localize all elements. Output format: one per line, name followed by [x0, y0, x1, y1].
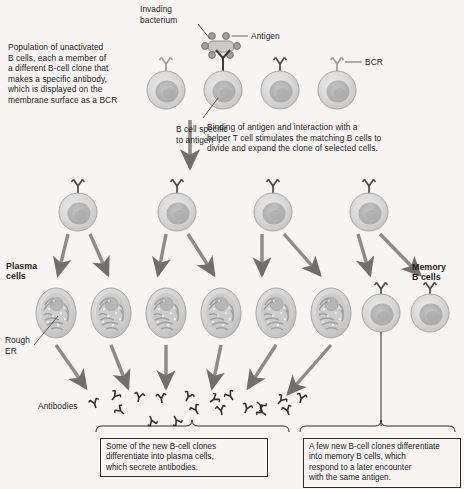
memory-cell-1[interactable] [362, 283, 400, 333]
antibodies-cluster [88, 389, 307, 426]
plasma-cell-4[interactable] [201, 288, 241, 338]
bcr-label: BCR [365, 57, 383, 68]
plasma-cell-6[interactable] [311, 288, 351, 338]
plasma-cells-label: Plasma cells [6, 261, 66, 282]
rough-er-label: Rough ER [5, 335, 45, 356]
binding-note: Binding of antigen and interaction with … [207, 122, 457, 154]
memory-cells-textbox: A few new B-cell clones differentiate in… [303, 438, 461, 488]
row-plasma-cells [34, 288, 351, 345]
antigen-label: Antigen [251, 31, 280, 42]
differentiation-arrows [58, 234, 420, 275]
row-memory-b-cells [362, 283, 449, 333]
plasma-cell-3[interactable] [146, 288, 186, 338]
plasma-cell-5[interactable] [256, 288, 296, 338]
row-activated-clone [59, 180, 388, 232]
memory-cell-2[interactable] [411, 283, 449, 333]
invading-bacterium-label: Invading bacterium [140, 4, 210, 25]
b-cell-2-selected[interactable] [204, 50, 242, 109]
clone-cell-3[interactable] [254, 180, 292, 232]
diagram-canvas: Population of unactivated B cells, each … [0, 0, 464, 489]
clone-cell-1[interactable] [59, 180, 97, 232]
row-unactivated-b-cells [147, 50, 362, 118]
plasma-cell-2[interactable] [91, 288, 131, 338]
plasma-cell-1[interactable] [36, 288, 76, 338]
b-cell-4[interactable] [318, 58, 356, 110]
bacterium-leader-line [198, 24, 210, 39]
memory-connector [300, 332, 455, 432]
plasma-cells-textbox: Some of the new B-cell clones differenti… [100, 438, 268, 477]
population-caption: Population of unactivated B cells, each … [8, 42, 158, 106]
clone-cell-4[interactable] [350, 180, 388, 232]
antibodies-label: Antibodies [38, 401, 78, 412]
invading-bacterium [198, 24, 248, 58]
plasma-brace [96, 420, 289, 432]
clone-cell-2[interactable] [158, 180, 196, 232]
b-cell-3[interactable] [261, 58, 299, 110]
memory-b-cells-label: Memory B cells [412, 262, 464, 283]
secretion-arrows [56, 345, 331, 394]
